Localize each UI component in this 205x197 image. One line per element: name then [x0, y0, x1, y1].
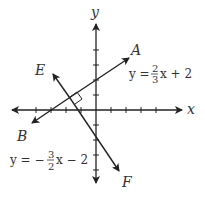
y-axis-label: y [90, 4, 100, 20]
svg-text:x + 2: x + 2 [160, 67, 192, 81]
svg-text:y = −: y = − [9, 153, 45, 167]
label-f: F [121, 174, 133, 190]
x-axis [12, 107, 182, 113]
label-b: B [16, 128, 27, 144]
x-axis-label: x [187, 101, 195, 117]
coordinate-plane: y x A B E F y = 2 3 x + 2 y = − 3 2 x − … [0, 0, 205, 197]
svg-text:2: 2 [48, 161, 54, 172]
line-ef [53, 74, 72, 101]
label-a: A [129, 42, 141, 58]
equation-line-ab: y = 2 3 x + 2 [128, 63, 192, 85]
svg-text:2: 2 [152, 63, 158, 74]
svg-text:3: 3 [48, 149, 54, 160]
label-e: E [34, 62, 45, 78]
svg-text:y =: y = [128, 67, 150, 81]
svg-text:x − 2: x − 2 [56, 153, 88, 167]
equation-line-ef: y = − 3 2 x − 2 [9, 149, 88, 172]
svg-text:3: 3 [152, 74, 158, 85]
y-axis [93, 24, 99, 183]
